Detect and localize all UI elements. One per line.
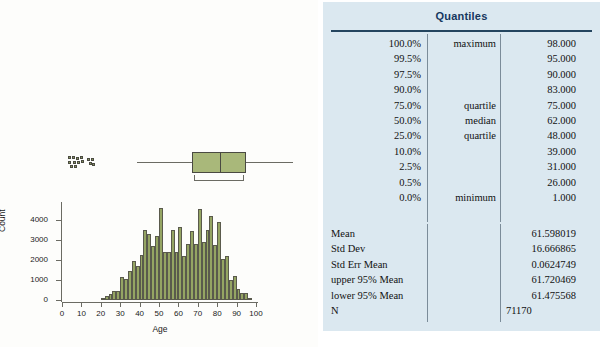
quantile-percent: 75.0% — [329, 100, 421, 111]
quantile-row: 2.5%31.000 — [323, 161, 600, 176]
x-axis-tick — [159, 302, 160, 307]
x-axis-tick — [120, 302, 121, 307]
summary-value: 71170 — [506, 305, 576, 316]
quantile-percent: 2.5% — [329, 161, 421, 172]
boxplot-outlier-point — [92, 163, 95, 166]
x-axis-tick — [256, 302, 257, 307]
quantile-value: 83.000 — [506, 84, 576, 95]
x-axis-tick — [198, 302, 199, 307]
y-axis-tick — [56, 260, 61, 261]
quantile-label: maximum — [431, 38, 496, 49]
y-axis-tick-label: 0 — [0, 295, 48, 304]
x-axis-tick-label: 10 — [71, 309, 91, 318]
quantile-value: 31.000 — [506, 161, 576, 172]
summary-label: Std Dev — [331, 243, 491, 254]
x-axis-tick-label: 100 — [246, 309, 266, 318]
quantile-row: 0.5%26.000 — [323, 177, 600, 192]
summary-label: Mean — [331, 228, 491, 239]
x-axis-line — [62, 302, 258, 303]
quantile-value: 95.000 — [506, 53, 576, 64]
quantile-percent: 99.5% — [329, 53, 421, 64]
boxplot-outlier-point — [74, 165, 77, 168]
quantile-row: 75.0%quartile75.000 — [323, 100, 600, 115]
histogram: Count Age 010002000300040000102030405060… — [0, 196, 318, 347]
x-axis-tick-label: 80 — [207, 309, 227, 318]
boxplot — [0, 138, 318, 190]
y-axis-tick — [56, 240, 61, 241]
quantile-row: 97.5%90.000 — [323, 69, 600, 84]
x-axis-tick-label: 30 — [110, 309, 130, 318]
summary-value: 0.0624749 — [506, 259, 576, 270]
x-axis-tick-label: 0 — [52, 309, 72, 318]
summary-row: N71170 — [323, 305, 600, 320]
y-axis-tick-label: 2000 — [0, 255, 48, 264]
quantile-value: 62.000 — [506, 115, 576, 126]
y-axis-tick-label: 3000 — [0, 235, 48, 244]
quantile-label: median — [431, 115, 496, 126]
quantile-percent: 100.0% — [329, 38, 421, 49]
boxplot-outlier-cluster — [68, 156, 94, 168]
x-axis-tick-label: 20 — [91, 309, 111, 318]
boxplot-mean-bracket — [194, 175, 245, 181]
quantile-row: 25.0%quartile48.000 — [323, 130, 600, 145]
boxplot-outlier-point — [68, 156, 71, 159]
boxplot-outlier-point — [76, 157, 79, 160]
boxplot-outlier-point — [68, 161, 71, 164]
x-axis-tick — [101, 302, 102, 307]
quantile-label: quartile — [431, 130, 496, 141]
quantile-percent: 0.5% — [329, 177, 421, 188]
quantile-row: 99.5%95.000 — [323, 53, 600, 68]
summary-value: 61.720469 — [506, 274, 576, 285]
summary-row: Std Dev16.666865 — [323, 243, 600, 258]
quantile-row: 10.0%39.000 — [323, 146, 600, 161]
quantile-percent: 50.0% — [329, 115, 421, 126]
x-axis-tick-label: 90 — [227, 309, 247, 318]
summary-label: N — [331, 305, 491, 316]
x-axis-tick — [237, 302, 238, 307]
report-title: Quantiles — [323, 10, 600, 22]
quantile-label: quartile — [431, 100, 496, 111]
boxplot-outlier-point — [73, 161, 76, 164]
quantile-value: 39.000 — [506, 146, 576, 157]
summary-label: Std Err Mean — [331, 259, 491, 270]
quantile-percent: 97.5% — [329, 69, 421, 80]
x-axis-tick — [178, 302, 179, 307]
x-axis-title: Age — [62, 324, 258, 334]
summary-value: 16.666865 — [506, 243, 576, 254]
y-axis-tick — [56, 300, 61, 301]
boxplot-outlier-point — [87, 158, 90, 161]
summary-row: Mean61.598019 — [323, 228, 600, 243]
boxplot-outlier-point — [80, 156, 83, 159]
quantile-value: 48.000 — [506, 130, 576, 141]
x-axis-tick-label: 70 — [188, 309, 208, 318]
graph-pane: Count Age 010002000300040000102030405060… — [0, 0, 318, 347]
title-divider — [331, 30, 592, 32]
summary-value: 61.598019 — [506, 228, 576, 239]
quantile-row: 100.0%maximum98.000 — [323, 38, 600, 53]
boxplot-outlier-point — [91, 158, 94, 161]
summary-row: upper 95% Mean61.720469 — [323, 274, 600, 289]
summary-row: Std Err Mean0.0624749 — [323, 259, 600, 274]
x-axis-tick — [140, 302, 141, 307]
x-axis-tick-label: 60 — [168, 309, 188, 318]
quantile-percent: 10.0% — [329, 146, 421, 157]
quantile-row: 50.0%median62.000 — [323, 115, 600, 130]
boxplot-outlier-point — [70, 165, 73, 168]
quantile-value: 90.000 — [506, 69, 576, 80]
quantile-value: 1.000 — [506, 192, 576, 203]
quantile-value: 98.000 — [506, 38, 576, 49]
x-axis-tick — [217, 302, 218, 307]
x-axis-tick-label: 40 — [130, 309, 150, 318]
histogram-bar — [248, 298, 252, 300]
quantiles-report-panel: Quantiles 100.0%maximum98.00099.5%95.000… — [323, 2, 600, 331]
summary-value: 61.475568 — [506, 290, 576, 301]
quantile-value: 75.000 — [506, 100, 576, 111]
y-axis-tick — [56, 220, 61, 221]
boxplot-outlier-point — [72, 156, 75, 159]
quantile-label: minimum — [431, 192, 496, 203]
x-axis-tick-label: 50 — [149, 309, 169, 318]
x-axis-tick — [81, 302, 82, 307]
summary-label: lower 95% Mean — [331, 290, 491, 301]
boxplot-outlier-point — [81, 160, 84, 163]
y-axis-tick-label: 1000 — [0, 275, 48, 284]
